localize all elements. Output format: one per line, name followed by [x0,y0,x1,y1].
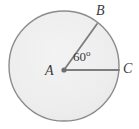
label-point-b: B [96,4,105,18]
geometry-svg [0,0,139,129]
angle-measure-label: 60o [73,50,91,63]
figure-canvas: A B C 60o [0,0,139,129]
circle-outline [9,11,119,121]
label-point-a: A [45,64,54,78]
label-point-c: C [123,62,132,76]
degree-symbol-icon: o [86,48,91,58]
angle-value: 60 [73,49,86,64]
center-point-dot [61,67,66,72]
